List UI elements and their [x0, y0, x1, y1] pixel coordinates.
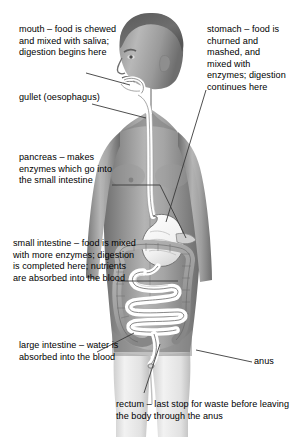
label-small-intestine: small intestine – food is mixed with mor…: [13, 238, 141, 284]
label-stomach: stomach – food is churned and mashed, an…: [207, 24, 287, 94]
label-gullet: gullet (oesophagus): [19, 92, 111, 104]
label-large-intestine: large intestine – water is absorbed into…: [19, 340, 123, 363]
label-anus: anus: [254, 356, 294, 368]
label-pancreas: pancreas – makes enzymes which go into t…: [19, 152, 119, 187]
label-mouth: mouth – food is chewed and mixed with sa…: [19, 24, 131, 59]
digestive-system-figure: mouth – food is chewed and mixed with sa…: [0, 0, 294, 437]
label-rectum: rectum – last stop for waste before leav…: [116, 399, 294, 422]
